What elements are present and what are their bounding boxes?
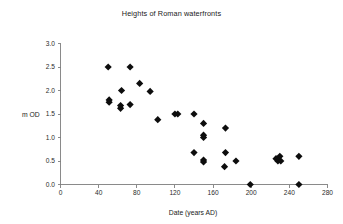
x-tick-label: 240 — [284, 189, 295, 196]
data-point — [295, 153, 302, 160]
data-point — [222, 125, 229, 132]
data-point — [136, 80, 143, 87]
data-point — [232, 157, 239, 164]
data-point — [190, 149, 197, 156]
y-tick-label: 1.0 — [46, 134, 55, 141]
x-tick-label: 120 — [169, 189, 180, 196]
data-point — [118, 87, 125, 94]
scatter-chart: Heights of Roman waterfronts 0.00.51.01.… — [0, 0, 343, 224]
x-tick-label: 80 — [133, 189, 141, 196]
data-point — [127, 63, 134, 70]
data-point — [105, 63, 112, 70]
x-axis-title: Date (years AD) — [169, 209, 217, 217]
data-point — [221, 163, 228, 170]
y-tick-label: 0.0 — [46, 181, 55, 188]
data-point — [295, 181, 302, 188]
y-tick-label: 1.5 — [46, 110, 55, 117]
data-point — [154, 116, 161, 123]
y-tick-label: 0.5 — [46, 157, 55, 164]
y-tick-label: 2.5 — [46, 63, 55, 70]
x-tick-label: 200 — [246, 189, 257, 196]
y-axis: 0.00.51.01.52.02.53.0 — [46, 40, 61, 188]
x-tick-label: 40 — [95, 189, 103, 196]
data-points — [105, 63, 303, 188]
x-axis: 04080120160200240280 — [59, 185, 334, 197]
data-point — [222, 149, 229, 156]
data-point — [190, 110, 197, 117]
x-tick-label: 160 — [208, 189, 219, 196]
data-point — [247, 181, 254, 188]
plot-area: 0.00.51.01.52.02.53.0 040801201602002402… — [0, 0, 343, 224]
y-axis-title: m OD — [22, 111, 40, 118]
y-tick-label: 2.0 — [46, 87, 55, 94]
data-point — [147, 88, 154, 95]
data-point — [200, 120, 207, 127]
y-tick-label: 3.0 — [46, 40, 55, 47]
data-point — [127, 101, 134, 108]
x-tick-label: 280 — [322, 189, 333, 196]
x-tick-label: 0 — [59, 189, 63, 196]
